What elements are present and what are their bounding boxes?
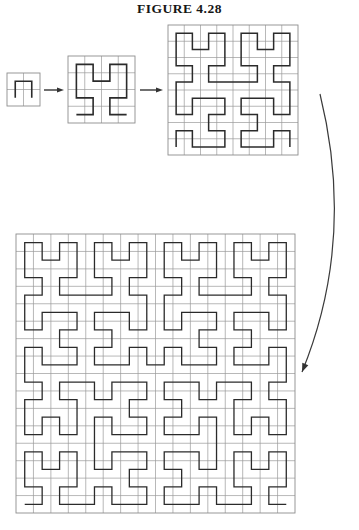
stage-1-grid	[7, 73, 40, 106]
arrow-stage3-to-stage4-head	[302, 363, 308, 372]
hilbert-curve-stage-3	[165, 22, 301, 158]
stage-3-drawing	[165, 22, 301, 158]
page-title: FIGURE 4.28	[0, 0, 359, 17]
stage-2-drawing	[65, 53, 138, 126]
stage-3-grid	[168, 25, 298, 155]
stage-4-drawing	[13, 231, 298, 516]
arrow-stage3-to-stage4-shaft	[302, 94, 334, 372]
hilbert-curve-stage-2	[65, 53, 138, 126]
stage-2-grid	[68, 56, 135, 123]
stage-4-grid	[16, 234, 295, 513]
arrow-stage2-to-stage3-head	[156, 87, 163, 92]
hilbert-curve-stage-4	[13, 231, 298, 516]
hilbert-curve-stage-1	[4, 70, 43, 109]
stage-1-drawing	[4, 70, 43, 109]
arrow-stage3-to-stage4	[302, 94, 334, 372]
arrow-stage1-to-stage2-head	[57, 87, 64, 92]
